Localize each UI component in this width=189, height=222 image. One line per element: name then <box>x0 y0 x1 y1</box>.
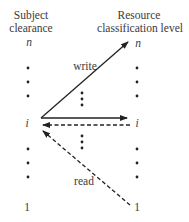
read-up-arrow <box>43 131 130 205</box>
resource-dots <box>136 67 139 179</box>
middle-dots <box>81 92 84 150</box>
subject-dots <box>27 67 30 179</box>
write-up-arrow <box>41 42 128 118</box>
flow-arrows <box>0 0 189 222</box>
